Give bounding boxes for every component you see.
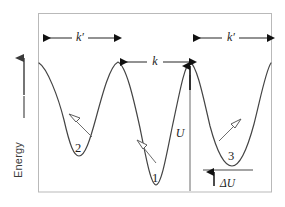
k-label: k [152, 54, 158, 68]
k-prime-right-label: k′ [227, 30, 235, 44]
k-prime-left-label: k′ [76, 30, 84, 44]
well-label-1: 1 [152, 171, 158, 185]
y-axis-label: Energy [12, 142, 24, 178]
potential-energy-figure: Energy k′ [0, 0, 285, 207]
plot-frame [39, 14, 272, 193]
delta-U-label: ΔU [219, 177, 236, 189]
well-label-3: 3 [228, 149, 234, 163]
U-label: U [176, 126, 186, 140]
well-label-2: 2 [75, 141, 81, 155]
figure-canvas: k′ k′ k U ΔU [0, 0, 285, 207]
